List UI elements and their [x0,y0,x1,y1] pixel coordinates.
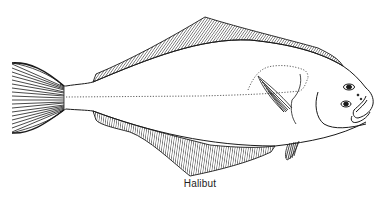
figure-caption: Halibut [0,178,387,189]
pectoral-fin [258,74,301,124]
caudal-fin [12,63,64,133]
dorsal-fin [93,17,343,82]
body-outline [60,40,366,146]
halibut-illustration [0,0,387,200]
head [341,84,373,123]
fish-drawing-icon [0,0,387,200]
